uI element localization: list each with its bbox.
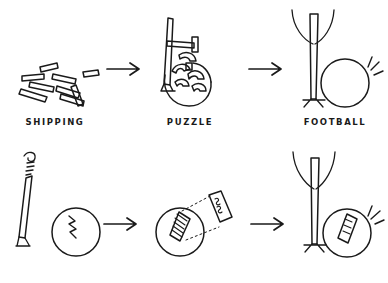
label-football: FOOTBALL: [285, 117, 385, 127]
label-shipping: SHIPPING: [0, 117, 110, 127]
label-puzzle: PUZZLE: [140, 117, 240, 127]
sketch-canvas: [0, 0, 388, 283]
